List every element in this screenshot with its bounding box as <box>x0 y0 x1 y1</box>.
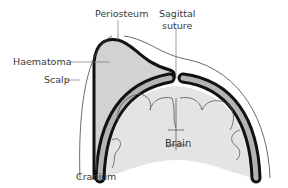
label-scalp: Scalp <box>44 75 70 85</box>
label-brain: Brain <box>165 139 191 149</box>
label-sagittal-line2: suture <box>159 21 195 31</box>
label-cranium: Cranium <box>76 172 116 182</box>
skull-cross-section-diagram <box>0 0 288 188</box>
label-sagittal-suture: Sagittal suture <box>159 9 195 30</box>
label-periosteum: Periosteum <box>95 9 148 19</box>
label-sagittal-line1: Sagittal <box>159 9 195 19</box>
label-haematoma: Haematoma <box>13 57 72 67</box>
